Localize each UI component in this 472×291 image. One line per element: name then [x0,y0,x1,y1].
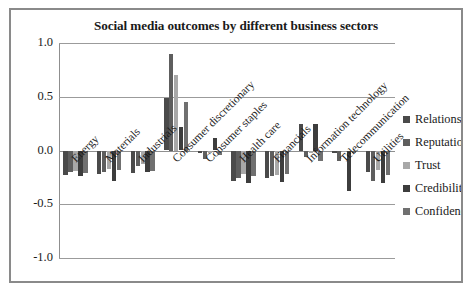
legend-label: Relationship [415,112,463,127]
legend-item[interactable]: Credibility [403,177,463,199]
legend-label: Credibility [415,181,463,196]
legend-swatch-icon [403,185,410,192]
legend-item[interactable]: Reputation [403,131,463,153]
legend-swatch-icon [403,162,410,169]
legend-item[interactable]: Relationship [403,108,463,130]
bar [131,151,135,174]
chart-title: Social media outcomes by different busin… [11,18,461,34]
legend-swatch-icon [403,116,410,123]
legend-swatch-icon [403,208,410,215]
chart-frame: Social media outcomes by different busin… [9,8,463,283]
y-tick-label: 0.5 [37,89,53,104]
bar [63,151,67,176]
y-tick-label: 0.0 [37,143,53,158]
legend-label: Reputation [415,135,463,150]
bar [97,151,101,175]
y-tick-label: 1.0 [37,35,53,50]
bar [198,151,202,153]
y-tick-label: -1.0 [33,250,53,265]
legend-label: Trust [415,158,441,173]
chart-legend: RelationshipReputationTrustCredibilityCo… [403,108,463,223]
bar [366,151,370,173]
legend-label: Confidence [415,204,463,219]
bar [174,75,178,150]
legend-item[interactable]: Confidence [403,200,463,222]
bar [332,151,336,153]
legend-swatch-icon [403,139,410,146]
bar [231,151,235,181]
bar [265,151,269,179]
y-tick-label: -0.5 [33,196,53,211]
gridline-neg1-0 [59,258,395,259]
legend-item[interactable]: Trust [403,154,463,176]
